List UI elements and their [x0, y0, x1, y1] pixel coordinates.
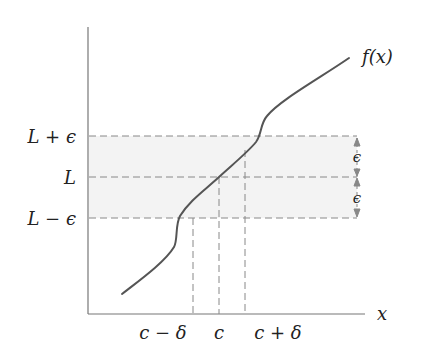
function-label: f(x): [360, 46, 393, 67]
epsilon-mark-lower: ϵ: [353, 189, 362, 207]
y-label-upper: L + ϵ: [26, 126, 76, 147]
x-label-right: c + δ: [254, 322, 301, 343]
y-label-middle: L: [63, 167, 76, 188]
x-label-left: c − δ: [139, 322, 186, 343]
epsilon-delta-diagram: f(x) x L + ϵ L L − ϵ c − δ c c + δ ϵ ϵ: [0, 0, 428, 356]
x-axis-label: x: [377, 303, 387, 324]
x-label-center: c: [214, 322, 224, 343]
y-label-lower: L − ϵ: [26, 208, 76, 229]
epsilon-mark-upper: ϵ: [353, 148, 362, 166]
